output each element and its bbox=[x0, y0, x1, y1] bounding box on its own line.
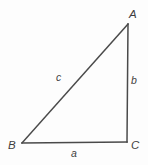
side-label-a: a bbox=[71, 148, 77, 159]
triangle-side-b-line bbox=[127, 24, 128, 142]
triangle-side-a-line bbox=[22, 142, 127, 143]
vertex-label-a: A bbox=[129, 9, 137, 21]
vertex-label-c: C bbox=[131, 140, 139, 152]
triangle-figure: A B C a b c bbox=[0, 0, 148, 165]
triangle-shape bbox=[0, 0, 148, 165]
vertex-label-b: B bbox=[8, 140, 16, 152]
side-label-c: c bbox=[56, 72, 61, 83]
triangle-side-c-line bbox=[22, 24, 128, 143]
side-label-b: b bbox=[131, 75, 137, 86]
